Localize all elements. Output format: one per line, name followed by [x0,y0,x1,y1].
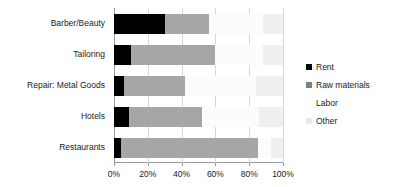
x-axis-tick-mark [182,163,183,166]
legend-label: Rent [316,62,334,72]
bar-segment[interactable] [263,14,283,34]
x-axis-tick-label: 20% [139,169,156,179]
bar-segment[interactable] [259,107,283,127]
bar-segment[interactable] [114,14,165,34]
x-axis-tick-label: 40% [173,169,190,179]
bar-row[interactable] [114,45,283,65]
bar-segment[interactable] [165,14,209,34]
x-axis-tick-mark [283,163,284,166]
bar-segment[interactable] [129,107,202,127]
category-label: Hotels [0,111,105,121]
legend-swatch-icon [306,64,312,70]
legend-item-rent[interactable]: Rent [306,58,397,76]
legend-item-labor[interactable]: Labor [306,94,397,112]
legend-swatch-icon [306,82,312,88]
legend-swatch-icon [306,100,312,106]
bar-segment[interactable] [258,138,272,158]
bar-segment[interactable] [121,138,258,158]
category-label: Restaurants [0,142,105,152]
plot-area: 0%20%40%60%80%100% [114,8,283,163]
x-axis-tick-label: 100% [272,169,294,179]
stacked-bar-chart: Barber/Beauty Tailoring Repair: Metal Go… [0,0,397,187]
legend-item-other[interactable]: Other [306,112,397,130]
x-axis-tick-label: 80% [241,169,258,179]
bar-segment[interactable] [114,45,131,65]
bar-row[interactable] [114,138,283,158]
category-label: Tailoring [0,49,105,59]
legend-item-raw-materials[interactable]: Raw materials [306,76,397,94]
bar-segment[interactable] [114,107,129,127]
bar-segment[interactable] [114,76,124,96]
x-axis-tick-mark [249,163,250,166]
bar-segment[interactable] [131,45,216,65]
chart-legend: Rent Raw materials Labor Other [306,58,397,130]
bar-segment[interactable] [209,14,263,34]
bar-segment[interactable] [114,138,121,158]
x-axis-tick-label: 60% [207,169,224,179]
legend-label: Raw materials [316,80,370,90]
x-axis-tick-mark [114,163,115,166]
bar-segment[interactable] [124,76,185,96]
x-axis-tick-label: 0% [108,169,120,179]
bar-segment[interactable] [202,107,259,127]
bar-segment[interactable] [271,138,283,158]
bar-row[interactable] [114,107,283,127]
y-axis-category-labels: Barber/Beauty Tailoring Repair: Metal Go… [0,8,110,163]
category-label: Repair: Metal Goods [0,80,105,90]
x-axis-tick-mark [215,163,216,166]
legend-label: Labor [316,98,338,108]
bar-segment[interactable] [185,76,256,96]
bar-segment[interactable] [215,45,262,65]
bar-segment[interactable] [263,45,283,65]
legend-label: Other [316,116,337,126]
bar-row[interactable] [114,14,283,34]
category-label: Barber/Beauty [0,18,105,28]
legend-swatch-icon [306,118,312,124]
bar-row[interactable] [114,76,283,96]
x-axis-tick-mark [148,163,149,166]
gridline [283,8,284,163]
bar-segment[interactable] [256,76,283,96]
